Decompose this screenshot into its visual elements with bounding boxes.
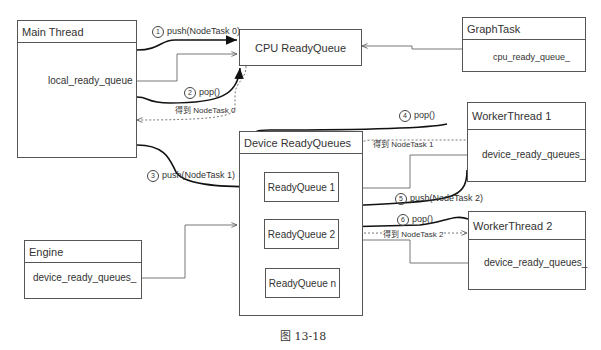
- local-ready-queue-field: local_ready_queue: [48, 75, 133, 86]
- graph-task-box: GraphTask: [462, 17, 586, 72]
- step-1-text: push(NodeTask 0): [167, 26, 240, 36]
- step-3-text: push(NodeTask 1): [162, 170, 235, 180]
- graph-task-title: GraphTask: [463, 18, 585, 40]
- step-2-text: pop(): [199, 87, 220, 97]
- worker-thread-2-field: device_ready_queues_: [484, 257, 587, 268]
- step-3-label: 3push(NodeTask 1): [147, 170, 235, 182]
- step-4-text: pop(): [414, 110, 435, 120]
- engine-title: Engine: [25, 241, 141, 263]
- step-5-number-icon: 5: [395, 193, 407, 205]
- main-thread-box: Main Thread: [17, 20, 137, 158]
- step-2-label: 2pop(): [184, 87, 220, 99]
- step-4-label: 4pop(): [399, 110, 435, 122]
- step-4-number-icon: 4: [399, 110, 411, 122]
- step-6-number-icon: 6: [397, 214, 409, 226]
- engine-field: device_ready_queues_: [33, 272, 136, 283]
- step-6-text: pop(): [412, 214, 433, 224]
- result-0-label: 得到 NodeTask 0: [175, 104, 235, 115]
- ready-queue-n: ReadyQueue n: [265, 268, 340, 298]
- step-1-number-icon: 1: [152, 26, 164, 38]
- device-ready-queues-title: Device ReadyQueues: [240, 132, 362, 154]
- main-thread-title: Main Thread: [18, 21, 136, 43]
- ready-queue-1: ReadyQueue 1: [264, 172, 339, 202]
- worker-thread-2-box: WorkerThread 2: [468, 211, 586, 290]
- step-1-label: 1push(NodeTask 0): [152, 26, 240, 38]
- ready-queue-2: ReadyQueue 2: [264, 219, 339, 249]
- step-2-number-icon: 2: [184, 87, 196, 99]
- worker-thread-1-box: WorkerThread 1: [467, 102, 586, 182]
- cpu-ready-queue-field: cpu_ready_queue_: [493, 52, 570, 62]
- worker-thread-1-title: WorkerThread 1: [468, 103, 585, 130]
- step-3-number-icon: 3: [147, 170, 159, 182]
- step-6-label: 6pop(): [397, 214, 433, 226]
- step-5-text: push(NodeTask 2): [410, 193, 483, 203]
- worker-thread-1-field: device_ready_queues_: [482, 149, 585, 160]
- result-2-label: 得到 NodeTask 2: [383, 228, 443, 239]
- cpu-ready-queue-box: CPU ReadyQueue: [239, 29, 362, 66]
- step-5-label: 5push(NodeTask 2): [395, 193, 483, 205]
- result-1-label: 得到 NodeTask 1: [373, 138, 433, 149]
- worker-thread-2-title: WorkerThread 2: [469, 212, 585, 240]
- cpu-ready-queue-title: CPU ReadyQueue: [255, 42, 346, 54]
- engine-box: Engine: [24, 240, 142, 299]
- figure-caption: 图 13-18: [280, 327, 326, 343]
